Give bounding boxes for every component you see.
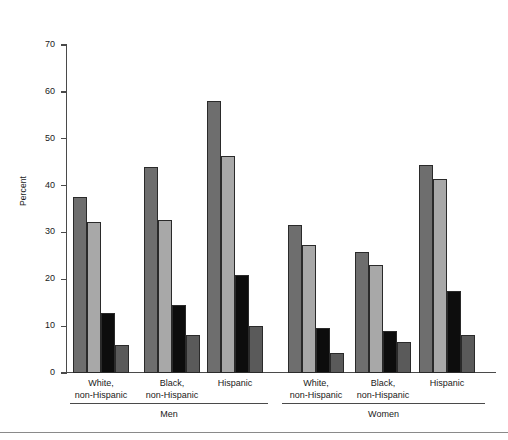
bar [158, 220, 172, 373]
y-axis-tick-label: 50 [27, 134, 55, 143]
category-label-line1: Black, [160, 378, 185, 388]
bar [369, 265, 383, 373]
bar [87, 222, 101, 373]
y-axis-tick-label: 40 [27, 181, 55, 190]
bar-group [73, 45, 129, 373]
bar [397, 342, 411, 373]
bar [186, 335, 200, 373]
bar [288, 225, 302, 373]
section-rule [70, 403, 268, 404]
bar [383, 331, 397, 373]
bar-group [144, 45, 200, 373]
category-label-line1: Hispanic [218, 378, 253, 388]
bar-chart-figure: Percent 010203040506070 White,non-Hispan… [0, 0, 508, 440]
bar [144, 167, 158, 373]
bar-group [419, 45, 475, 373]
bar [249, 326, 263, 373]
bar [101, 313, 115, 373]
y-axis-tick-label: 10 [27, 321, 55, 330]
bar [221, 156, 235, 373]
y-axis-tick-label: 20 [27, 274, 55, 283]
category-label-line2: non-Hispanic [126, 390, 218, 402]
plot-area [66, 45, 496, 373]
section-label: Women [282, 409, 485, 419]
bar [330, 353, 344, 373]
bar [419, 165, 433, 374]
y-axis-title: Percent [18, 146, 28, 236]
y-axis-tick-label: 0 [27, 368, 55, 377]
bar [302, 245, 316, 373]
footer-divider [0, 432, 508, 433]
bar-group [288, 45, 344, 373]
category-label: Hispanic [189, 378, 281, 390]
bar [355, 252, 369, 373]
y-axis-tick-label: 70 [27, 40, 55, 49]
category-label-line1: Hispanic [430, 378, 465, 388]
category-label-line1: White, [88, 378, 114, 388]
bar [447, 291, 461, 373]
bar [115, 345, 129, 373]
section-rule [282, 403, 485, 404]
section-label: Men [70, 409, 268, 419]
bar-group [207, 45, 263, 373]
category-label-line1: White, [303, 378, 329, 388]
bar [172, 305, 186, 373]
y-axis-tick-label: 30 [27, 227, 55, 236]
category-label-line1: Black, [371, 378, 396, 388]
bar [235, 275, 249, 373]
bar [433, 179, 447, 373]
category-label: Hispanic [401, 378, 493, 390]
bar [73, 197, 87, 373]
bar [461, 335, 475, 373]
bar [316, 328, 330, 373]
category-label-line2: non-Hispanic [337, 390, 429, 402]
bar-group [355, 45, 411, 373]
bar [207, 101, 221, 373]
y-axis-tick-label: 60 [27, 87, 55, 96]
